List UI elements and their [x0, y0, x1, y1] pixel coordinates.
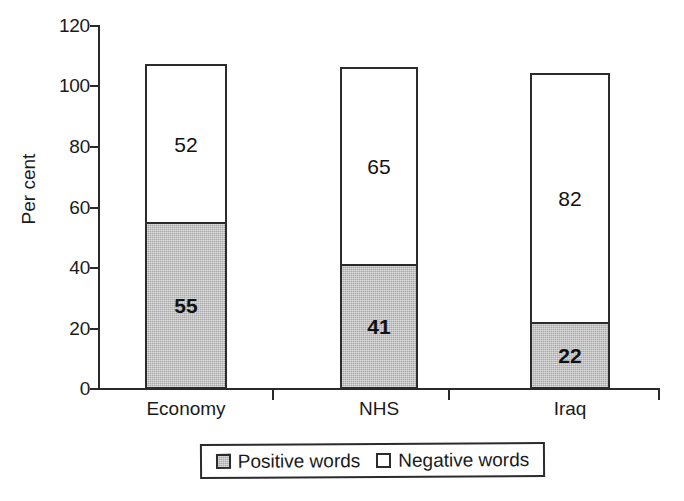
bar-segment-positive-economy[interactable]: 55 [145, 222, 227, 389]
x-axis-category-label-nhs: NHS [311, 399, 447, 418]
figure-stacked-bar-chart: Per cent 120 100 80 60 40 20 0 [0, 0, 684, 501]
y-tick-label-20-wrap: 20 [22, 319, 90, 338]
chart-legend: Positive words Negative words [200, 442, 545, 479]
x-tick-3 [658, 390, 660, 400]
y-tick-label-100-wrap: 100 [22, 76, 90, 95]
legend-item-positive-words[interactable]: Positive words [216, 451, 361, 471]
legend-label-negative: Negative words [398, 450, 529, 470]
y-tick-60 [90, 207, 99, 209]
y-tick-label-80-wrap: 80 [22, 137, 90, 156]
x-axis-category-label-iraq: Iraq [502, 399, 638, 418]
y-tick-label-60: 60 [36, 198, 90, 217]
y-tick-label-0: 0 [36, 379, 90, 398]
plot-area: Per cent 120 100 80 60 40 20 0 [0, 0, 684, 501]
bar-segment-negative-nhs[interactable]: 65 [340, 67, 418, 266]
y-tick-80 [90, 146, 99, 148]
bar-segment-negative-economy[interactable]: 52 [145, 64, 227, 224]
y-tick-label-60-wrap: 60 [22, 198, 90, 217]
y-tick-label-40-wrap: 40 [22, 258, 90, 277]
legend-swatch-positive-icon [216, 454, 231, 469]
legend-label-positive: Positive words [238, 451, 361, 471]
bar-label-positive-nhs: 41 [367, 316, 390, 337]
y-tick-label-40: 40 [36, 258, 90, 277]
y-tick-label-0-wrap: 0 [22, 379, 90, 398]
y-tick-100 [90, 85, 99, 87]
y-tick-120 [90, 25, 99, 27]
y-tick-40 [90, 267, 99, 269]
legend-swatch-negative-icon [376, 453, 391, 468]
y-tick-label-120-wrap: 120 [22, 16, 90, 35]
y-tick-20 [90, 328, 99, 330]
legend-item-negative-words[interactable]: Negative words [376, 450, 529, 470]
y-tick-label-100: 100 [36, 76, 90, 95]
bar-label-positive-iraq: 22 [558, 345, 581, 366]
bar-segment-negative-iraq[interactable]: 82 [530, 73, 610, 324]
x-tick-1 [272, 390, 274, 400]
x-axis-category-label-economy: Economy [118, 399, 254, 418]
bar-label-positive-economy: 55 [174, 295, 197, 316]
bar-label-negative-iraq: 82 [558, 188, 581, 209]
bar-label-negative-economy: 52 [174, 134, 197, 155]
bar-label-negative-nhs: 65 [367, 156, 390, 177]
y-tick-label-20: 20 [36, 319, 90, 338]
x-tick-2 [448, 390, 450, 400]
bar-segment-positive-iraq[interactable]: 22 [530, 322, 610, 389]
y-tick-label-120: 120 [36, 16, 90, 35]
bar-segment-positive-nhs[interactable]: 41 [340, 264, 418, 389]
y-tick-label-80: 80 [36, 137, 90, 156]
y-tick-0 [90, 388, 99, 390]
